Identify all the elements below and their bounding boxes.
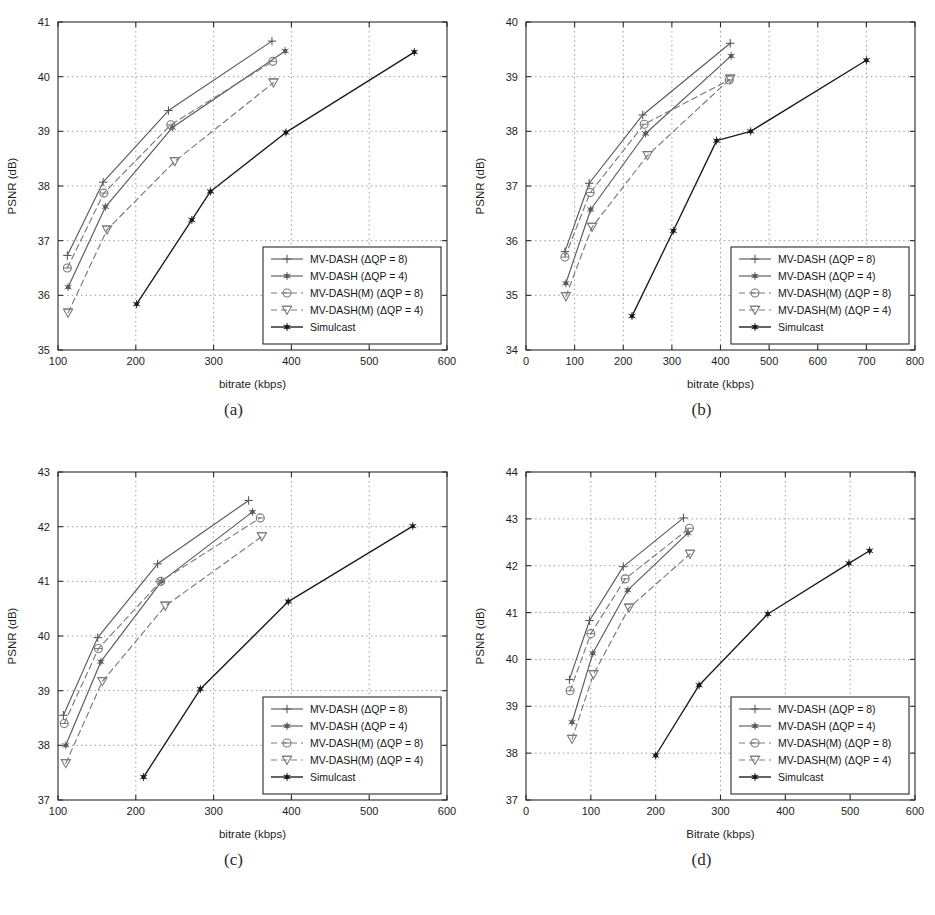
legend-label: MV-DASH(M) (ΔQP = 8) bbox=[310, 737, 423, 749]
legend-label: MV-DASH (ΔQP = 4) bbox=[310, 720, 408, 732]
x-tick-label: 400 bbox=[711, 355, 729, 367]
x-tick-label: 100 bbox=[582, 805, 600, 817]
y-tick-label: 36 bbox=[506, 235, 518, 247]
panel-d: 01002003004005006003738394041424344Bitra… bbox=[468, 450, 935, 907]
chart-c: 10020030040050060037383940414243bitrate … bbox=[0, 450, 467, 860]
y-tick-label: 39 bbox=[506, 71, 518, 83]
x-tick-label: 300 bbox=[711, 805, 729, 817]
legend-label: MV-DASH(M) (ΔQP = 8) bbox=[778, 287, 891, 299]
y-axis-label: PSNR (dB) bbox=[474, 607, 486, 664]
x-tick-label: 400 bbox=[776, 805, 794, 817]
x-tick-label: 200 bbox=[646, 805, 664, 817]
caption-c: (c) bbox=[0, 850, 467, 870]
x-tick-label: 0 bbox=[523, 355, 529, 367]
x-tick-label: 100 bbox=[49, 805, 67, 817]
x-tick-label: 100 bbox=[565, 355, 583, 367]
legend: MV-DASH (ΔQP = 8)MV-DASH (ΔQP = 4)MV-DAS… bbox=[731, 697, 909, 794]
legend-label: MV-DASH(M) (ΔQP = 8) bbox=[778, 737, 891, 749]
x-tick-label: 400 bbox=[282, 355, 300, 367]
chart-d: 01002003004005006003738394041424344Bitra… bbox=[468, 450, 935, 860]
y-tick-label: 41 bbox=[38, 16, 50, 28]
plot-d: 01002003004005006003738394041424344Bitra… bbox=[468, 450, 935, 860]
legend: MV-DASH (ΔQP = 8)MV-DASH (ΔQP = 4)MV-DAS… bbox=[731, 247, 909, 344]
x-tick-label: 300 bbox=[204, 355, 222, 367]
y-tick-label: 34 bbox=[506, 344, 518, 356]
y-tick-label: 36 bbox=[38, 289, 50, 301]
legend-label: Simulcast bbox=[310, 771, 356, 783]
y-tick-label: 38 bbox=[38, 180, 50, 192]
y-tick-label: 39 bbox=[38, 125, 50, 137]
x-tick-label: 500 bbox=[841, 805, 859, 817]
x-axis-label: bitrate (kbps) bbox=[687, 378, 754, 390]
legend-label: MV-DASH(M) (ΔQP = 4) bbox=[310, 304, 423, 316]
y-tick-label: 42 bbox=[506, 560, 518, 572]
legend-label: Simulcast bbox=[310, 321, 356, 333]
chart-b: 010020030040050060070080034353637383940b… bbox=[468, 0, 935, 410]
x-tick-label: 500 bbox=[360, 805, 378, 817]
legend-label: MV-DASH(M) (ΔQP = 8) bbox=[310, 287, 423, 299]
plot-a: 10020030040050060035363738394041bitrate … bbox=[0, 0, 467, 410]
figure-rate-distortion-grid: 10020030040050060035363738394041bitrate … bbox=[0, 0, 935, 915]
y-tick-label: 37 bbox=[38, 235, 50, 247]
plot-c: 10020030040050060037383940414243bitrate … bbox=[0, 450, 467, 860]
legend-label: MV-DASH (ΔQP = 8) bbox=[310, 703, 408, 715]
legend-label: MV-DASH (ΔQP = 4) bbox=[778, 270, 876, 282]
legend: MV-DASH (ΔQP = 8)MV-DASH (ΔQP = 4)MV-DAS… bbox=[263, 697, 441, 794]
x-tick-label: 800 bbox=[906, 355, 924, 367]
y-tick-label: 41 bbox=[38, 575, 50, 587]
y-tick-label: 43 bbox=[506, 513, 518, 525]
y-tick-label: 38 bbox=[506, 125, 518, 137]
x-tick-label: 400 bbox=[282, 805, 300, 817]
x-axis-label: bitrate (kbps) bbox=[219, 378, 286, 390]
x-axis-label: Bitrate (kbps) bbox=[686, 828, 755, 840]
x-tick-label: 200 bbox=[127, 355, 145, 367]
chart-a: 10020030040050060035363738394041bitrate … bbox=[0, 0, 467, 410]
x-tick-label: 200 bbox=[127, 805, 145, 817]
y-tick-label: 35 bbox=[38, 344, 50, 356]
y-tick-label: 40 bbox=[506, 653, 518, 665]
y-tick-label: 38 bbox=[38, 739, 50, 751]
x-tick-label: 500 bbox=[360, 355, 378, 367]
legend-label: Simulcast bbox=[778, 321, 824, 333]
plot-b: 010020030040050060070080034353637383940b… bbox=[468, 0, 935, 410]
panel-a: 10020030040050060035363738394041bitrate … bbox=[0, 0, 467, 457]
legend-label: MV-DASH(M) (ΔQP = 4) bbox=[778, 304, 891, 316]
x-tick-label: 200 bbox=[614, 355, 632, 367]
x-tick-label: 600 bbox=[438, 355, 456, 367]
x-tick-label: 0 bbox=[523, 805, 529, 817]
y-tick-label: 40 bbox=[38, 630, 50, 642]
x-tick-label: 300 bbox=[663, 355, 681, 367]
y-tick-label: 35 bbox=[506, 289, 518, 301]
y-tick-label: 38 bbox=[506, 747, 518, 759]
x-tick-label: 600 bbox=[809, 355, 827, 367]
legend-label: MV-DASH(M) (ΔQP = 4) bbox=[778, 754, 891, 766]
legend-label: Simulcast bbox=[778, 771, 824, 783]
y-tick-label: 37 bbox=[38, 794, 50, 806]
x-tick-label: 500 bbox=[760, 355, 778, 367]
y-axis-label: PSNR (dB) bbox=[6, 157, 18, 214]
panel-b: 010020030040050060070080034353637383940b… bbox=[468, 0, 935, 457]
legend-label: MV-DASH (ΔQP = 8) bbox=[310, 253, 408, 265]
legend-label: MV-DASH (ΔQP = 4) bbox=[310, 270, 408, 282]
y-tick-label: 44 bbox=[506, 466, 518, 478]
legend-label: MV-DASH (ΔQP = 8) bbox=[778, 703, 876, 715]
y-tick-label: 40 bbox=[38, 71, 50, 83]
legend-label: MV-DASH (ΔQP = 4) bbox=[778, 720, 876, 732]
y-tick-label: 43 bbox=[38, 466, 50, 478]
y-axis-label: PSNR (dB) bbox=[474, 157, 486, 214]
x-tick-label: 600 bbox=[438, 805, 456, 817]
legend-label: MV-DASH (ΔQP = 8) bbox=[778, 253, 876, 265]
x-axis-label: bitrate (kbps) bbox=[219, 828, 286, 840]
panel-c: 10020030040050060037383940414243bitrate … bbox=[0, 450, 467, 907]
y-tick-label: 40 bbox=[506, 16, 518, 28]
x-tick-label: 700 bbox=[857, 355, 875, 367]
x-tick-label: 600 bbox=[906, 805, 924, 817]
legend: MV-DASH (ΔQP = 8)MV-DASH (ΔQP = 4)MV-DAS… bbox=[263, 247, 441, 344]
legend-label: MV-DASH(M) (ΔQP = 4) bbox=[310, 754, 423, 766]
x-tick-label: 300 bbox=[204, 805, 222, 817]
y-tick-label: 37 bbox=[506, 794, 518, 806]
x-tick-label: 100 bbox=[49, 355, 67, 367]
y-tick-label: 41 bbox=[506, 607, 518, 619]
y-tick-label: 42 bbox=[38, 521, 50, 533]
caption-a: (a) bbox=[0, 400, 467, 420]
